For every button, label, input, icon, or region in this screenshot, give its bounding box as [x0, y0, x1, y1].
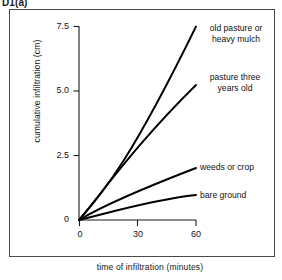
y-tick-label-0: 0: [39, 214, 69, 224]
y-tick-label-7-5: 7.5: [39, 21, 69, 31]
series-annotation-pasture-three-years-old: pasture three years old: [198, 72, 272, 93]
series-line-weeds-or-crop: [79, 168, 196, 220]
figure-id-caption: D1(a): [2, 0, 28, 8]
figure-page: D1(a) 7.5 5.0 2.5 0 0 3: [0, 0, 282, 280]
series-annotation-line1: old pasture or: [198, 23, 274, 34]
figure-frame: 7.5 5.0 2.5 0 0 30 60 cumulative infiltr…: [9, 9, 275, 257]
x-tick-label-30: 30: [123, 229, 153, 239]
series-annotation-line2: years old: [198, 83, 272, 94]
series-line-pasture-three-years-old: [79, 85, 196, 220]
series-annotation-line1: pasture three: [198, 72, 272, 83]
y-axis-title: cumulative infiltration (cm): [32, 26, 42, 156]
series-annotation-line2: heavy mulch: [198, 34, 274, 45]
series-annotation-old-pasture-or-heavy-mulch: old pasture or heavy mulch: [198, 23, 274, 44]
x-tick-label-60: 60: [181, 229, 211, 239]
y-tick-label-2-5: 2.5: [39, 150, 69, 160]
x-tick-label-0: 0: [65, 229, 95, 239]
series-annotation-bare-ground: bare ground: [200, 190, 246, 201]
x-axis-title: time of infiltration (minutes): [50, 262, 250, 272]
y-tick-label-5-0: 5.0: [39, 85, 69, 95]
series-annotation-weeds-or-crop: weeds or crop: [200, 162, 254, 173]
